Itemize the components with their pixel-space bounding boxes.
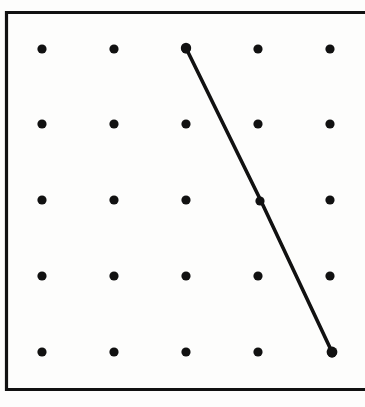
geoboard-canvas (0, 0, 365, 407)
peg-dot-r2-c2 (109, 119, 118, 128)
peg-dot-r4-c2 (109, 271, 118, 280)
peg-dot-r5-c3 (181, 347, 190, 356)
peg-dot-r1-c1 (37, 44, 46, 53)
peg-dot-r3-c3 (181, 195, 190, 204)
peg-dot-r3-c5 (325, 195, 334, 204)
segment-start-marker (181, 43, 191, 53)
peg-dot-r2-c3 (181, 119, 190, 128)
peg-dot-r5-c2 (109, 347, 118, 356)
peg-dot-r2-c1 (37, 119, 46, 128)
peg-dot-r1-c2 (109, 44, 118, 53)
peg-dot-r3-c2 (109, 195, 118, 204)
segment-end-marker (327, 347, 338, 358)
peg-dot-r2-c4 (253, 119, 262, 128)
peg-dot-r2-c5 (325, 119, 334, 128)
peg-dot-r5-c1 (37, 347, 46, 356)
paper-background (0, 0, 365, 407)
geoboard-figure: Geoboard with five-by-five peg grid and … (0, 0, 365, 407)
peg-dot-r4-c4 (253, 271, 262, 280)
peg-dot-r5-c4 (253, 347, 262, 356)
peg-dot-r4-c5 (325, 271, 334, 280)
peg-dot-r4-c1 (37, 271, 46, 280)
peg-dot-r1-c5 (325, 44, 334, 53)
peg-dot-r3-c1 (37, 195, 46, 204)
peg-dot-r4-c3 (181, 271, 190, 280)
peg-dot-r1-c4 (253, 44, 262, 53)
